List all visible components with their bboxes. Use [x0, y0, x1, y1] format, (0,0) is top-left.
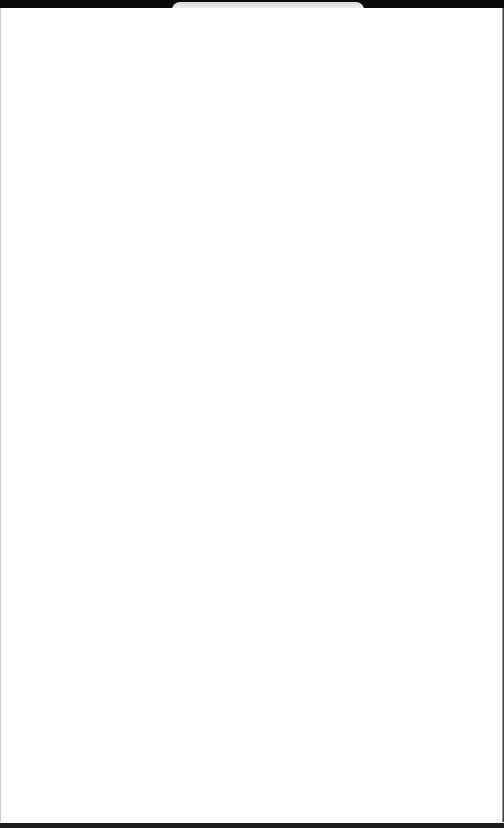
blank-content-area	[1, 8, 502, 823]
bottom-bezel	[0, 823, 504, 828]
screen-frame	[0, 0, 504, 828]
